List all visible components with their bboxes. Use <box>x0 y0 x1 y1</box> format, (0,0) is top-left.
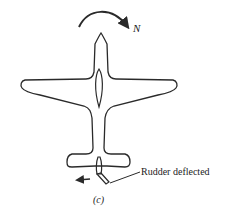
deflected-rudder-icon <box>97 173 109 184</box>
diagram-canvas: N Rudder deflected (c) <box>0 0 227 214</box>
figure-caption: (c) <box>93 194 105 206</box>
yaw-moment-arrow-icon <box>79 12 127 27</box>
rudder-label: Rudder deflected <box>141 166 210 177</box>
moment-label: N <box>132 22 141 34</box>
airplane-outline-icon <box>21 33 177 167</box>
rudder-leader-line <box>110 172 140 183</box>
airplane-yaw-diagram: N Rudder deflected (c) <box>0 0 227 214</box>
side-force-arrow-icon <box>78 179 90 180</box>
canopy-icon <box>96 69 103 107</box>
